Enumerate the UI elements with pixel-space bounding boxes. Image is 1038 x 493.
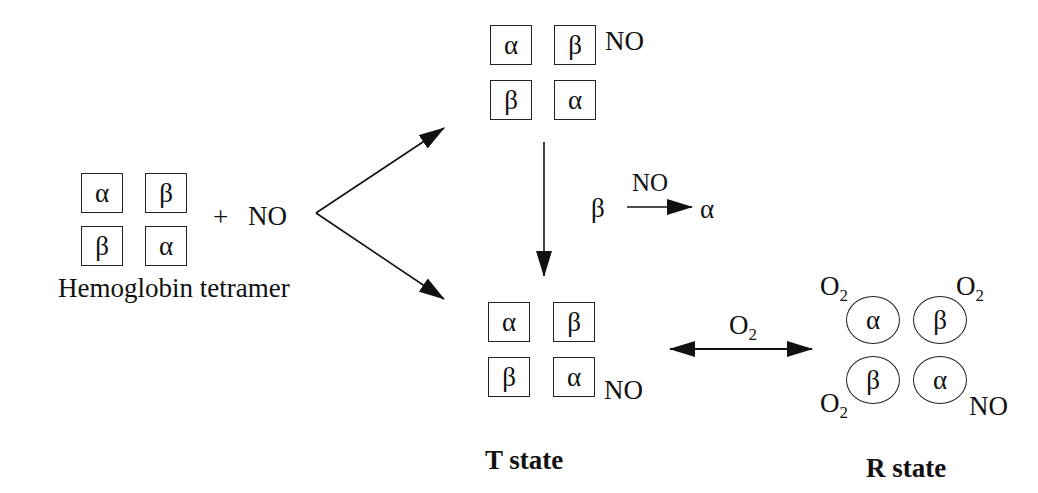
top-no-ligand: NO [605,28,644,55]
r-o2-bottom-left: O2 [820,390,848,421]
t-beta-1: β [553,302,595,342]
t-state-label: T state [485,447,563,474]
r-beta-2: β [846,356,900,404]
top-beta-2: β [490,80,532,120]
tetramer-label: Hemoglobin tetramer [58,275,290,302]
t-alpha-2: α [553,357,595,397]
t-beta-2: β [488,357,530,397]
plus-sign: + [213,204,228,231]
branch-arrow-down [316,213,444,299]
r-alpha-1: α [846,296,900,344]
r-no-bottom-right: NO [969,393,1008,420]
transfer-from-beta: β [591,195,605,222]
tetramer-beta-2: β [81,226,123,266]
no-reactant: NO [248,203,287,230]
equilibrium-o2-label: O2 [729,312,757,343]
t-no-ligand: NO [604,377,643,404]
top-alpha-2: α [554,80,596,120]
top-beta-1: β [554,25,596,65]
r-alpha-2: α [913,356,967,404]
tetramer-beta-1: β [145,173,187,213]
t-alpha-1: α [488,302,530,342]
tetramer-alpha-1: α [81,173,123,213]
r-state-label: R state [866,455,946,482]
r-o2-top-right: O2 [956,273,984,304]
branch-arrow-up [316,128,444,213]
top-alpha-1: α [490,25,532,65]
transfer-to-alpha: α [700,196,714,223]
transfer-no-label: NO [632,170,668,195]
tetramer-alpha-2: α [145,226,187,266]
r-o2-top-left: O2 [820,273,848,304]
